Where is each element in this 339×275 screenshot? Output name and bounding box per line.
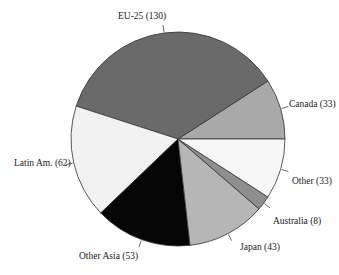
leader-line <box>264 204 270 208</box>
pie-slices <box>71 32 285 246</box>
label-other: Other (33) <box>292 176 332 187</box>
label-japan: Japan (43) <box>240 242 280 253</box>
label-other-asia: Other Asia (53) <box>79 251 138 262</box>
label-latin-am: Latin Am. (62) <box>14 158 71 169</box>
leader-line <box>282 170 289 172</box>
label-eu25: EU-25 (130) <box>118 11 166 22</box>
leader-line <box>228 234 231 240</box>
pie-chart: Canada (33) EU-25 (130) Latin Am. (62) O… <box>0 0 339 275</box>
leader-line <box>282 107 289 109</box>
label-australia: Australia (8) <box>273 216 321 227</box>
label-canada: Canada (33) <box>289 99 336 110</box>
leader-line <box>163 25 164 32</box>
leader-line <box>139 241 141 248</box>
